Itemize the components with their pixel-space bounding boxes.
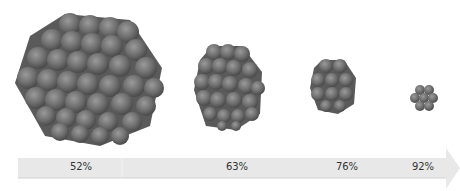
surface-fraction-label: 63% (226, 161, 248, 172)
surface-fraction-label: 52% (70, 161, 92, 172)
surface-fraction-label: 92% (412, 161, 434, 172)
surface-fraction-label: 76% (336, 161, 358, 172)
